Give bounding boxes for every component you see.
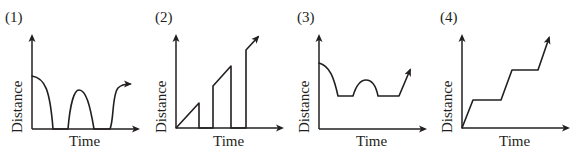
x-axis-label: Time <box>213 133 244 149</box>
graph-panel-4: (4) Distance Time <box>439 9 568 149</box>
y-axis-label: Distance <box>439 80 455 133</box>
y-axis-label: Distance <box>9 80 25 133</box>
graph-panel-1: (1) Distance Time <box>5 9 138 149</box>
distance-time-graphs: (1) Distance Time (2) Distance Time (3) … <box>0 0 573 153</box>
panel-label: (4) <box>440 9 458 26</box>
distance-curve <box>176 37 258 128</box>
x-axis-label: Time <box>69 133 100 149</box>
panel-label: (2) <box>155 9 173 26</box>
graph-panel-2: (2) Distance Time <box>153 9 282 149</box>
panel-label: (3) <box>297 9 315 26</box>
distance-curve <box>32 76 130 129</box>
y-axis-label: Distance <box>296 80 312 133</box>
graph-panel-3: (3) Distance Time <box>296 9 425 149</box>
distance-curve <box>319 63 410 96</box>
panel-label: (1) <box>5 9 23 26</box>
x-axis-label: Time <box>356 133 387 149</box>
y-axis-label: Distance <box>153 80 169 133</box>
distance-curve <box>462 38 549 128</box>
x-axis-label: Time <box>499 133 530 149</box>
